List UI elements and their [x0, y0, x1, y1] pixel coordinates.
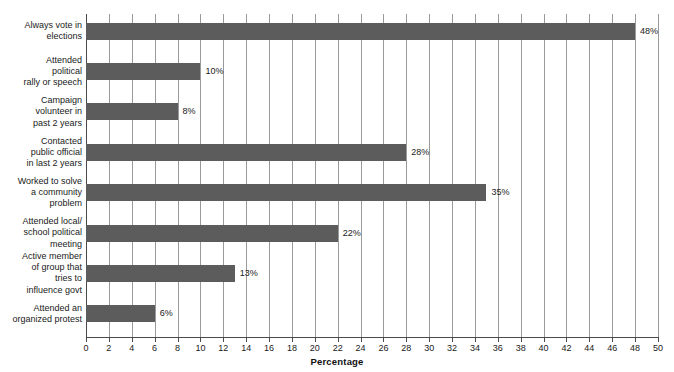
- x-tick-mark-30: [429, 337, 430, 342]
- gridline-24: [361, 14, 362, 337]
- category-label-line: Attended an: [0, 303, 82, 314]
- bar-chart: Always vote inelectionsAttendedpolitical…: [0, 0, 674, 372]
- category-label: Campaignvolunteer inpast 2 years: [0, 95, 82, 129]
- x-tick-mark-50: [658, 337, 659, 342]
- category-label-line: a community: [0, 187, 82, 198]
- category-label: Worked to solvea communityproblem: [0, 176, 82, 210]
- x-tick-mark-48: [635, 337, 636, 342]
- category-label: Attended local/school politicalmeeting: [0, 216, 82, 250]
- bar-value-label: 13%: [240, 265, 258, 282]
- x-tick-label-22: 22: [333, 343, 343, 354]
- gridline-34: [475, 14, 476, 337]
- gridline-14: [246, 14, 247, 337]
- gridline-18: [292, 14, 293, 337]
- bar: [86, 103, 178, 120]
- category-label-line: past 2 years: [0, 118, 82, 129]
- x-tick-mark-38: [521, 337, 522, 342]
- gridline-46: [612, 14, 613, 337]
- x-tick-mark-10: [200, 337, 201, 342]
- gridline-20: [315, 14, 316, 337]
- x-tick-label-34: 34: [470, 343, 480, 354]
- x-tick-label-48: 48: [630, 343, 640, 354]
- x-tick-label-10: 10: [195, 343, 205, 354]
- category-label: Attended anorganized protest: [0, 303, 82, 325]
- bar: [86, 144, 406, 161]
- gridline-22: [338, 14, 339, 337]
- gridline-36: [498, 14, 499, 337]
- x-tick-mark-2: [109, 337, 110, 342]
- category-label-line: political: [0, 66, 82, 77]
- bar-value-label: 28%: [411, 144, 429, 161]
- bar: [86, 305, 155, 322]
- bar: [86, 265, 235, 282]
- plot-area: [86, 14, 658, 337]
- bar: [86, 23, 635, 40]
- x-tick-mark-4: [132, 337, 133, 342]
- x-tick-label-0: 0: [83, 343, 88, 354]
- bar-value-label: 8%: [183, 103, 196, 120]
- gridline-12: [223, 14, 224, 337]
- category-label-line: Attended local/: [0, 216, 82, 227]
- x-tick-label-24: 24: [356, 343, 366, 354]
- x-tick-label-6: 6: [152, 343, 157, 354]
- x-axis-title: Percentage: [0, 356, 674, 367]
- category-label-line: Active member: [0, 251, 82, 262]
- x-tick-label-42: 42: [561, 343, 571, 354]
- x-tick-label-8: 8: [175, 343, 180, 354]
- category-label-line: public official: [0, 147, 82, 158]
- x-tick-mark-46: [612, 337, 613, 342]
- gridline-48: [635, 14, 636, 337]
- x-tick-label-20: 20: [310, 343, 320, 354]
- x-tick-label-28: 28: [401, 343, 411, 354]
- bar-value-label: 22%: [343, 225, 361, 242]
- category-label-line: organized protest: [0, 314, 82, 325]
- x-tick-label-18: 18: [287, 343, 297, 354]
- x-tick-mark-44: [589, 337, 590, 342]
- category-label-line: school political: [0, 227, 82, 238]
- x-tick-label-50: 50: [653, 343, 663, 354]
- x-tick-mark-20: [315, 337, 316, 342]
- category-label-line: Always vote in: [0, 20, 82, 31]
- x-tick-mark-36: [498, 337, 499, 342]
- x-tick-label-2: 2: [106, 343, 111, 354]
- x-tick-label-30: 30: [424, 343, 434, 354]
- category-label-line: Campaign: [0, 95, 82, 106]
- x-tick-mark-40: [544, 337, 545, 342]
- x-tick-mark-6: [155, 337, 156, 342]
- gridline-26: [383, 14, 384, 337]
- x-tick-mark-34: [475, 337, 476, 342]
- x-axis-line: [86, 337, 659, 338]
- gridline-32: [452, 14, 453, 337]
- gridline-10: [200, 14, 201, 337]
- category-label-line: elections: [0, 31, 82, 42]
- x-tick-mark-32: [452, 337, 453, 342]
- x-tick-mark-12: [223, 337, 224, 342]
- category-label: Attendedpoliticalrally or speech: [0, 55, 82, 89]
- x-tick-label-44: 44: [584, 343, 594, 354]
- x-tick-mark-18: [292, 337, 293, 342]
- x-tick-label-38: 38: [516, 343, 526, 354]
- bar: [86, 225, 338, 242]
- bar-value-label: 6%: [160, 305, 173, 322]
- category-label-line: Contacted: [0, 136, 82, 147]
- x-tick-mark-22: [338, 337, 339, 342]
- category-label-line: meeting: [0, 239, 82, 250]
- gridline-42: [566, 14, 567, 337]
- category-label-line: volunteer in: [0, 106, 82, 117]
- category-label-line: influence govt: [0, 285, 82, 296]
- x-tick-mark-26: [383, 337, 384, 342]
- x-tick-mark-28: [406, 337, 407, 342]
- category-label: Active memberof group thattries toinflue…: [0, 251, 82, 296]
- category-label-line: rally or speech: [0, 77, 82, 88]
- gridline-16: [269, 14, 270, 337]
- category-label-line: problem: [0, 198, 82, 209]
- x-tick-label-4: 4: [129, 343, 134, 354]
- bar-value-label: 35%: [491, 184, 509, 201]
- bar-value-label: 10%: [205, 63, 223, 80]
- category-label-line: Attended: [0, 55, 82, 66]
- x-tick-label-40: 40: [539, 343, 549, 354]
- x-tick-label-32: 32: [447, 343, 457, 354]
- category-label-line: of group that: [0, 262, 82, 273]
- x-tick-label-46: 46: [607, 343, 617, 354]
- category-label-line: in last 2 years: [0, 158, 82, 169]
